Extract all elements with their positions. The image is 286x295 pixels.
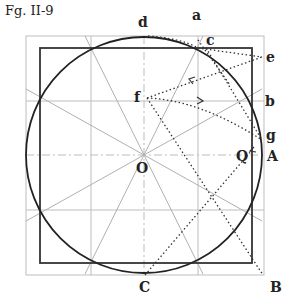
label-A: A [266,148,279,164]
label-c: c [206,32,215,48]
arrow-icon [250,147,256,152]
arrowheads [189,77,256,152]
label-e: e [266,49,275,65]
label-f: f [134,89,141,105]
label-d: d [138,14,148,30]
label-C: C [139,279,150,295]
label-B: B [270,279,282,295]
label-Q: Q [236,148,248,164]
label-b: b [265,93,275,109]
geometry-diagram: d a c e f b g O Q A C B [0,0,286,295]
label-g: g [266,127,276,143]
label-a: a [192,7,201,23]
label-O: O [136,160,148,176]
